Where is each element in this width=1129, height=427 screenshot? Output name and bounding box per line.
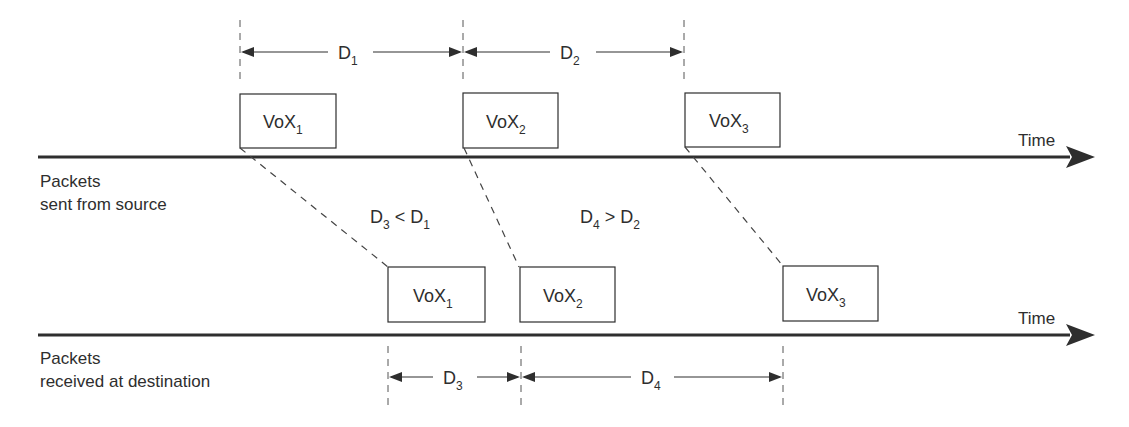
source-packet-2: VoX2	[463, 93, 558, 148]
interval-d3-label: D3	[443, 368, 463, 393]
comparison-d3-d1: D3 < D1	[370, 207, 430, 232]
arrow-right-icon	[507, 372, 520, 382]
transit-line-3	[685, 147, 783, 266]
destination-time-arrow-icon	[1066, 324, 1095, 346]
transit-lines	[240, 147, 783, 267]
arrow-right-icon	[769, 372, 782, 382]
arrow-right-icon	[449, 47, 462, 57]
destination-axis-label-line1: Packets	[40, 349, 100, 368]
arrow-left-icon	[464, 47, 477, 57]
jitter-diagram: Time Packets sent from source D1 D2 VoX1…	[0, 0, 1129, 427]
source-interval-guides	[240, 20, 684, 82]
source-timeline: Time Packets sent from source	[38, 131, 1095, 214]
source-axis-label-line2: sent from source	[40, 195, 167, 214]
arrow-left-icon	[241, 47, 254, 57]
interval-d2-label: D2	[560, 43, 580, 68]
arrow-left-icon	[389, 372, 402, 382]
source-packet-1: VoX1	[240, 94, 336, 148]
comparison-d4-d2: D4 > D2	[580, 207, 640, 232]
source-time-arrow-icon	[1066, 146, 1095, 168]
transit-line-2	[464, 148, 519, 267]
destination-time-label: Time	[1018, 309, 1055, 328]
destination-packet-1: VoX1	[388, 267, 485, 322]
destination-axis-label-line2: received at destination	[40, 372, 210, 391]
destination-packet-2: VoX2	[520, 267, 615, 322]
source-packet-3: VoX3	[685, 93, 780, 147]
arrow-right-icon	[670, 47, 683, 57]
source-axis-label-line1: Packets	[40, 172, 100, 191]
transit-line-1	[240, 148, 388, 267]
interval-d4-label: D4	[641, 368, 661, 393]
arrow-left-icon	[522, 372, 535, 382]
destination-packet-3: VoX3	[783, 266, 878, 321]
source-time-label: Time	[1018, 131, 1055, 150]
interval-d1-label: D1	[338, 43, 358, 68]
